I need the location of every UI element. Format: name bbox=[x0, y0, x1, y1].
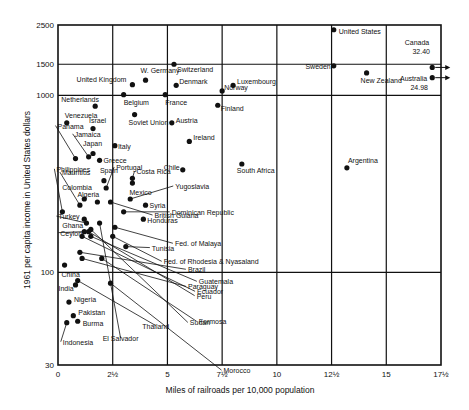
point-morocco bbox=[108, 281, 113, 286]
label-jamaica: Jamaica bbox=[75, 131, 101, 138]
label-mauritius: Mauritius bbox=[62, 169, 91, 176]
point-formosa bbox=[99, 256, 104, 261]
point-denmark bbox=[174, 83, 179, 88]
point-new-zealand bbox=[364, 70, 369, 75]
label-burma: Burma bbox=[83, 320, 104, 327]
x-tick-label: 17½ bbox=[433, 370, 449, 379]
point-fed-of-rhodesia-nyasaland bbox=[110, 234, 115, 239]
point-honduras bbox=[141, 217, 146, 222]
label-austria: Austria bbox=[176, 117, 198, 124]
y-tick-label: 2500 bbox=[36, 21, 54, 30]
point-belgium bbox=[121, 92, 126, 97]
point-austria bbox=[169, 120, 174, 125]
label-nigeria: Nigeria bbox=[74, 296, 96, 304]
point-british-guiana bbox=[108, 199, 113, 204]
point-portugal bbox=[104, 185, 109, 190]
point-tunisia bbox=[123, 244, 128, 249]
label-sudan: Sudan bbox=[190, 319, 210, 326]
point-paraguay bbox=[79, 256, 84, 261]
y-tick-label: 1000 bbox=[36, 91, 54, 100]
leader-fed-of-malaya bbox=[115, 227, 173, 243]
off-scale-arrowhead-australia bbox=[445, 75, 450, 80]
label-mexico: Mexico bbox=[129, 189, 151, 196]
off-scale-value-canada: 32.40 bbox=[412, 48, 430, 55]
point-fed-of-malaya bbox=[112, 225, 117, 230]
label-united-kingdom: United Kingdom bbox=[77, 76, 127, 84]
point-australia bbox=[430, 75, 435, 80]
label-switzerland: Switzerland bbox=[177, 66, 213, 73]
point-argentina bbox=[344, 165, 349, 170]
label-united-states: United States bbox=[339, 28, 382, 35]
label-new-zealand: New Zealand bbox=[361, 77, 402, 84]
label-guatemala: Guatemala bbox=[199, 278, 233, 285]
label-british-guiana: British Guiana bbox=[155, 212, 199, 219]
label-south-africa: South Africa bbox=[237, 167, 275, 174]
label-france: France bbox=[165, 99, 187, 106]
point-panama bbox=[73, 156, 78, 161]
point-algeria bbox=[95, 199, 100, 204]
point-united-kingdom bbox=[130, 82, 135, 87]
point-thailand bbox=[75, 278, 80, 283]
y-tick-label: 1500 bbox=[36, 60, 54, 69]
label-yugoslavia: Yugoslavia bbox=[175, 183, 209, 191]
point-greece bbox=[97, 158, 102, 163]
point-w-germany bbox=[143, 78, 148, 83]
label-brazil: Brazil bbox=[188, 266, 206, 273]
point-yugoslavia bbox=[128, 196, 133, 201]
label-canada: Canada bbox=[405, 39, 430, 46]
point-sweden bbox=[331, 63, 336, 68]
label-indonesia: Indonesia bbox=[63, 339, 93, 346]
data-points bbox=[60, 27, 435, 325]
label-syria: Syria bbox=[150, 202, 166, 210]
label-sweden: Sweden bbox=[305, 63, 330, 70]
label-panama: Panama bbox=[58, 123, 84, 130]
label-colombia: Colombia bbox=[62, 184, 92, 191]
label-peru: Peru bbox=[197, 293, 212, 300]
point-spain bbox=[101, 178, 106, 183]
point-burma bbox=[75, 319, 80, 324]
point-switzerland bbox=[171, 62, 176, 67]
label-fed-of-rhodesia-nyasaland: Fed. of Rhodesia & Nyasaland bbox=[164, 258, 259, 266]
y-axis-label: 1961 per capita income in United States … bbox=[22, 111, 32, 289]
x-tick-label: 5 bbox=[165, 370, 170, 379]
x-tick-label: 7½ bbox=[217, 370, 228, 379]
point-dominican-republic bbox=[121, 209, 126, 214]
label-israel: Israel bbox=[89, 117, 107, 124]
label-soviet-union: Soviet Union bbox=[129, 119, 169, 126]
label-argentina: Argentina bbox=[348, 157, 378, 165]
x-tick-label: 12½ bbox=[324, 370, 340, 379]
y-tick-label: 30 bbox=[45, 361, 54, 370]
point-el-salvador bbox=[97, 221, 102, 226]
off-scale-arrowhead-canada bbox=[445, 65, 450, 70]
point-jamaica bbox=[86, 154, 91, 159]
point-italy bbox=[112, 143, 117, 148]
x-tick-label: 2½ bbox=[107, 370, 118, 379]
x-tick-labels: 02½57½1012½1517½ bbox=[56, 370, 449, 379]
label-turkey: Turkey bbox=[58, 213, 80, 221]
label-india: India bbox=[59, 285, 74, 292]
label-netherlands: Netherlands bbox=[61, 96, 99, 103]
point-france bbox=[163, 92, 168, 97]
point-costa-rica bbox=[130, 176, 135, 181]
x-tick-label: 15 bbox=[382, 370, 391, 379]
label-ghana: Ghana bbox=[62, 222, 83, 229]
point-soviet-union bbox=[132, 112, 137, 117]
point-chile bbox=[180, 167, 185, 172]
label-ireland: Ireland bbox=[193, 134, 215, 141]
leader-tunisia bbox=[126, 247, 150, 248]
label-thailand: Thailand bbox=[142, 323, 169, 330]
label-australia: Australia bbox=[400, 75, 427, 82]
label-algeria: Algeria bbox=[77, 191, 99, 199]
y-tick-labels: 25001500100010030 bbox=[36, 21, 54, 370]
leader-lines bbox=[54, 65, 450, 370]
point-indonesia bbox=[64, 320, 69, 325]
point-syria bbox=[143, 203, 148, 208]
point-pakistan bbox=[71, 313, 76, 318]
point-finland bbox=[215, 103, 220, 108]
point-nigeria bbox=[66, 299, 71, 304]
point-sudan bbox=[88, 227, 93, 232]
off-scale-value-australia: 24.98 bbox=[410, 84, 428, 91]
label-el-salvador: El Salvador bbox=[103, 335, 139, 342]
leader-sudan bbox=[91, 229, 188, 322]
label-costa-rica: Costa Rica bbox=[136, 168, 170, 175]
